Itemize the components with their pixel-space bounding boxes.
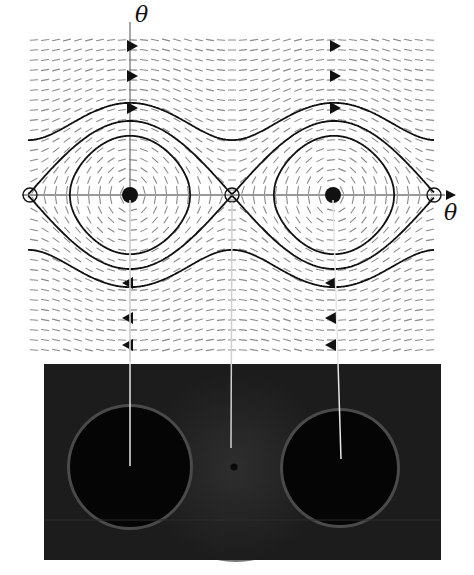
vector-field-dash [108, 279, 115, 281]
vector-field-dash [174, 148, 179, 153]
vector-field-dash [239, 80, 246, 81]
vector-field-dash [53, 99, 60, 101]
vector-field-dash [396, 177, 399, 184]
vector-field-dash [316, 309, 323, 310]
vector-field-dash [151, 49, 158, 50]
vector-field-dash [174, 349, 181, 351]
vector-field-dash [196, 238, 202, 242]
vector-field-dash [394, 349, 401, 351]
vector-field-dash [415, 319, 422, 320]
vector-field-dash [383, 299, 390, 302]
vector-field-dash [426, 149, 433, 150]
vector-field-dash [295, 289, 302, 292]
vector-field-dash [108, 259, 115, 261]
vector-field-dash [109, 207, 113, 213]
vector-field-dash [361, 319, 368, 321]
vector-field-dash [209, 186, 210, 193]
vector-field-dash [327, 150, 334, 151]
vector-field-dash [360, 49, 367, 51]
vector-field-dash [64, 39, 71, 41]
vector-field-dash [404, 39, 411, 40]
vector-field-dash [405, 79, 412, 81]
vector-field-dash [405, 69, 412, 71]
vector-field-dash [361, 79, 368, 81]
vector-field-dash [273, 39, 280, 41]
vector-field-dash [86, 258, 92, 262]
vector-field-dash [42, 158, 48, 162]
vector-field-dash [118, 239, 125, 241]
vector-field-dash [118, 330, 125, 331]
vector-field-dash [140, 79, 147, 80]
vector-field-dash [426, 260, 433, 261]
vector-field-dash [262, 329, 269, 331]
vector-field-dash [372, 289, 379, 292]
vector-field-dash [199, 186, 200, 193]
vector-field-dash [154, 186, 155, 193]
vector-field-dash [64, 339, 71, 341]
vector-field-dash [86, 89, 93, 92]
vector-field-dash [163, 289, 170, 292]
guide-line-saddle [231, 202, 232, 448]
theta-axis-arrow-icon [446, 190, 456, 200]
central-dot [231, 464, 238, 471]
vector-field-dash [207, 99, 214, 101]
vector-field-dash [350, 289, 357, 291]
vector-field-dash [118, 90, 125, 91]
vector-field-dash [383, 59, 390, 61]
vector-field-dash [298, 196, 299, 203]
vector-field-dash [327, 140, 334, 141]
vector-field-dash [306, 299, 313, 301]
vector-field-dash [41, 319, 48, 320]
vector-field-dash [405, 279, 412, 282]
vector-field-dash [207, 119, 214, 121]
vector-field-dash [75, 79, 82, 81]
vector-field-dash [394, 329, 401, 331]
vector-field-dash [75, 89, 82, 92]
vector-field-dash [273, 248, 279, 252]
vector-field-dash [284, 99, 291, 102]
vector-field-dash [86, 238, 91, 243]
vector-field-dash [385, 207, 387, 214]
vector-field-dash [185, 99, 192, 102]
vector-field-dash [250, 39, 257, 40]
vector-field-dash [41, 299, 48, 300]
vector-field-dash [75, 258, 81, 262]
vector-field-dash [306, 279, 313, 281]
vector-field-dash [86, 349, 93, 351]
vector-field-dash [284, 289, 291, 292]
vector-field-dash [394, 278, 401, 281]
vector-field-dash [151, 59, 158, 61]
vector-field-dash [97, 309, 104, 311]
vector-field-dash [42, 218, 48, 223]
vector-field-dash [163, 39, 170, 41]
vector-field-dash [406, 217, 410, 223]
vector-field-dash [262, 118, 268, 121]
vector-field-dash [295, 118, 301, 121]
vector-field-dash [338, 239, 345, 241]
vector-field-dash [394, 309, 401, 311]
vector-field-dash [217, 310, 224, 311]
vector-field-dash [262, 238, 268, 242]
vector-field-dash [263, 167, 267, 173]
vector-field-dash [394, 99, 401, 102]
vector-field-dash [55, 186, 56, 193]
vector-field-dash [188, 196, 189, 203]
vector-field-dash [53, 279, 60, 282]
vector-field-dash [317, 158, 323, 161]
vector-field-dash [31, 219, 38, 221]
vector-field-dash [284, 349, 291, 351]
vector-field-dash [140, 330, 147, 331]
vector-field-dash [361, 119, 368, 122]
vector-field-dash [239, 99, 246, 100]
vector-field-dash [174, 79, 181, 81]
vector-field-dash [383, 329, 390, 331]
vector-field-dash [287, 196, 288, 203]
vector-field-dash [286, 207, 288, 214]
vector-field-dash [349, 39, 356, 40]
vector-field-dash [140, 40, 147, 41]
arrow-left-icon [122, 339, 133, 351]
vector-field-dash [250, 69, 257, 70]
vector-field-dash [54, 217, 58, 223]
vector-field-dash [394, 118, 400, 121]
vector-field-dash [140, 99, 147, 100]
